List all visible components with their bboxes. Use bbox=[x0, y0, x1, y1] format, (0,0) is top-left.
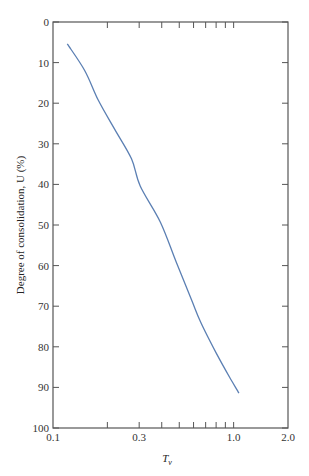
y-tick-label: 40 bbox=[38, 178, 50, 190]
y-tick-label: 0 bbox=[44, 16, 50, 28]
y-tick-label: 70 bbox=[38, 300, 50, 312]
y-tick-label: 10 bbox=[38, 57, 50, 69]
consolidation-chart: 0.10.31.02.0 0102030405060708090100 Degr… bbox=[0, 0, 309, 476]
series-line bbox=[67, 44, 239, 393]
y-tick-label: 50 bbox=[38, 219, 50, 231]
plot-frame bbox=[53, 22, 288, 428]
y-tick-label: 60 bbox=[38, 260, 50, 272]
y-tick-label: 30 bbox=[38, 138, 50, 150]
x-tick-label: 2.0 bbox=[281, 431, 295, 443]
x-tick-label: 0.3 bbox=[132, 431, 146, 443]
x-axis-title: Tv bbox=[162, 452, 172, 467]
y-tick-label: 90 bbox=[38, 381, 50, 393]
y-axis-title: Degree of consolidation, U (%) bbox=[14, 155, 27, 294]
y-tick-label: 80 bbox=[38, 341, 50, 353]
x-axis-ticks: 0.10.31.02.0 bbox=[46, 22, 295, 443]
y-tick-label: 100 bbox=[33, 422, 50, 434]
x-axis-title-sub: v bbox=[168, 458, 172, 467]
y-tick-label: 20 bbox=[38, 97, 50, 109]
x-tick-label: 1.0 bbox=[227, 431, 241, 443]
plot-border bbox=[53, 22, 288, 428]
consolidation-curve bbox=[67, 44, 239, 393]
y-axis-ticks: 0102030405060708090100 bbox=[33, 16, 289, 434]
